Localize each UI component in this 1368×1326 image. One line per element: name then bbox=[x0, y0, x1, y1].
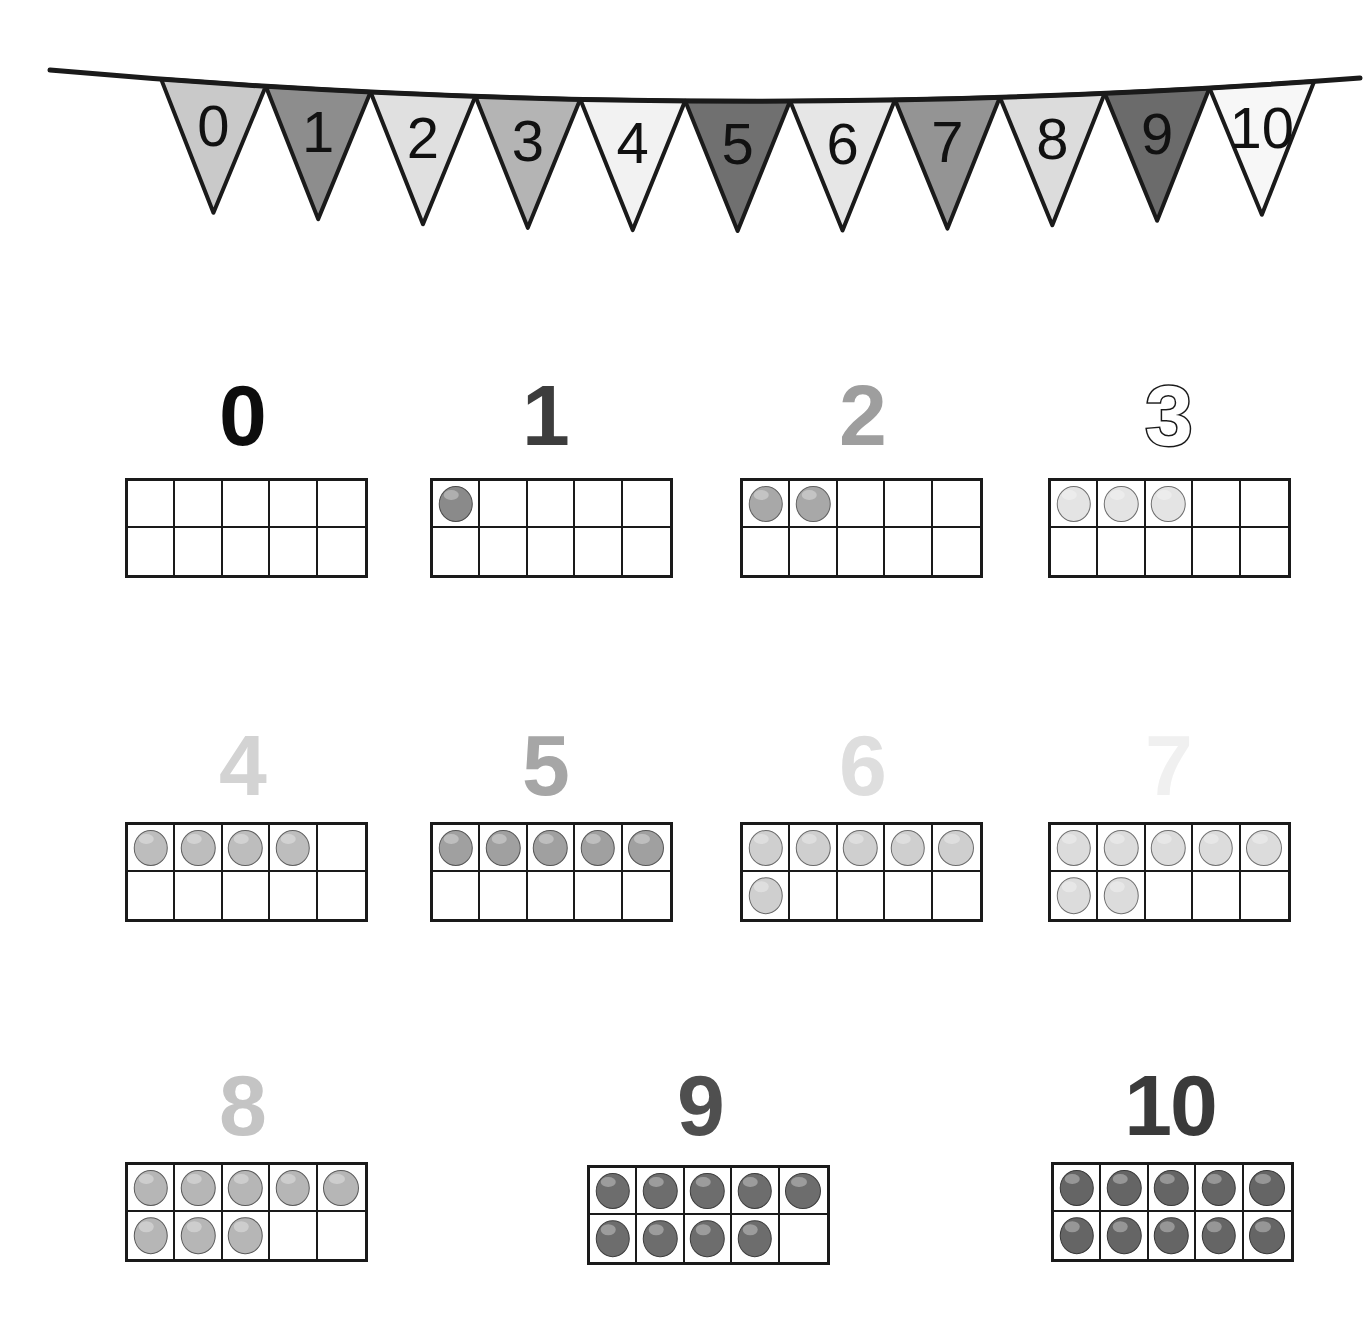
ten-frame-cell[interactable] bbox=[1051, 481, 1098, 528]
ten-frame-cell[interactable] bbox=[175, 528, 222, 575]
ten-frame-cell[interactable] bbox=[223, 872, 270, 919]
ten-frame-cell[interactable] bbox=[885, 528, 932, 575]
ten-frame-cell[interactable] bbox=[1146, 481, 1193, 528]
ten-frame-cell[interactable] bbox=[128, 481, 175, 528]
ten-frame-3[interactable] bbox=[1048, 478, 1291, 578]
ten-frame-cell[interactable] bbox=[223, 481, 270, 528]
ten-frame-cell[interactable] bbox=[623, 825, 670, 872]
ten-frame-cell[interactable] bbox=[270, 1212, 317, 1259]
ten-frame-cell[interactable] bbox=[1098, 528, 1145, 575]
ten-frame-cell[interactable] bbox=[318, 481, 365, 528]
ten-frame-cell[interactable] bbox=[175, 872, 222, 919]
ten-frame-cell[interactable] bbox=[1193, 872, 1240, 919]
ten-frame-5[interactable] bbox=[430, 822, 673, 922]
ten-frame-cell[interactable] bbox=[575, 528, 622, 575]
ten-frame-cell[interactable] bbox=[1193, 528, 1240, 575]
ten-frame-1[interactable] bbox=[430, 478, 673, 578]
ten-frame-cell[interactable] bbox=[1193, 825, 1240, 872]
ten-frame-cell[interactable] bbox=[732, 1168, 779, 1215]
ten-frame-cell[interactable] bbox=[480, 481, 527, 528]
ten-frame-cell[interactable] bbox=[528, 481, 575, 528]
ten-frame-cell[interactable] bbox=[270, 825, 317, 872]
ten-frame-cell[interactable] bbox=[480, 825, 527, 872]
ten-frame-cell[interactable] bbox=[790, 481, 837, 528]
ten-frame-cell[interactable] bbox=[933, 872, 980, 919]
ten-frame-cell[interactable] bbox=[933, 481, 980, 528]
ten-frame-cell[interactable] bbox=[1241, 825, 1288, 872]
ten-frame-cell[interactable] bbox=[128, 872, 175, 919]
ten-frame-cell[interactable] bbox=[1098, 825, 1145, 872]
ten-frame-cell[interactable] bbox=[223, 825, 270, 872]
ten-frame-cell[interactable] bbox=[623, 481, 670, 528]
ten-frame-cell[interactable] bbox=[1196, 1212, 1243, 1259]
ten-frame-cell[interactable] bbox=[1146, 825, 1193, 872]
ten-frame-cell[interactable] bbox=[637, 1168, 684, 1215]
ten-frame-cell[interactable] bbox=[732, 1215, 779, 1262]
ten-frame-cell[interactable] bbox=[623, 872, 670, 919]
ten-frame-cell[interactable] bbox=[1098, 872, 1145, 919]
ten-frame-cell[interactable] bbox=[637, 1215, 684, 1262]
ten-frame-0[interactable] bbox=[125, 478, 368, 578]
ten-frame-cell[interactable] bbox=[1146, 872, 1193, 919]
ten-frame-cell[interactable] bbox=[933, 825, 980, 872]
ten-frame-4[interactable] bbox=[125, 822, 368, 922]
ten-frame-cell[interactable] bbox=[685, 1215, 732, 1262]
ten-frame-cell[interactable] bbox=[223, 528, 270, 575]
ten-frame-cell[interactable] bbox=[1244, 1212, 1291, 1259]
ten-frame-cell[interactable] bbox=[175, 481, 222, 528]
ten-frame-cell[interactable] bbox=[780, 1168, 827, 1215]
ten-frame-cell[interactable] bbox=[590, 1168, 637, 1215]
ten-frame-cell[interactable] bbox=[128, 825, 175, 872]
ten-frame-8[interactable] bbox=[125, 1162, 368, 1262]
ten-frame-cell[interactable] bbox=[743, 872, 790, 919]
ten-frame-cell[interactable] bbox=[1196, 1165, 1243, 1212]
ten-frame-cell[interactable] bbox=[838, 528, 885, 575]
ten-frame-cell[interactable] bbox=[838, 872, 885, 919]
ten-frame-cell[interactable] bbox=[1241, 481, 1288, 528]
ten-frame-cell[interactable] bbox=[433, 528, 480, 575]
ten-frame-cell[interactable] bbox=[1098, 481, 1145, 528]
ten-frame-10[interactable] bbox=[1051, 1162, 1294, 1262]
ten-frame-cell[interactable] bbox=[480, 872, 527, 919]
ten-frame-cell[interactable] bbox=[128, 1165, 175, 1212]
ten-frame-cell[interactable] bbox=[528, 872, 575, 919]
ten-frame-9[interactable] bbox=[587, 1165, 830, 1265]
ten-frame-cell[interactable] bbox=[1051, 825, 1098, 872]
ten-frame-cell[interactable] bbox=[838, 481, 885, 528]
ten-frame-cell[interactable] bbox=[1146, 528, 1193, 575]
ten-frame-cell[interactable] bbox=[743, 528, 790, 575]
ten-frame-cell[interactable] bbox=[480, 528, 527, 575]
ten-frame-cell[interactable] bbox=[1054, 1165, 1101, 1212]
ten-frame-cell[interactable] bbox=[1241, 872, 1288, 919]
ten-frame-cell[interactable] bbox=[175, 1212, 222, 1259]
ten-frame-cell[interactable] bbox=[575, 825, 622, 872]
ten-frame-cell[interactable] bbox=[790, 825, 837, 872]
ten-frame-cell[interactable] bbox=[175, 1165, 222, 1212]
ten-frame-cell[interactable] bbox=[838, 825, 885, 872]
ten-frame-cell[interactable] bbox=[623, 528, 670, 575]
ten-frame-cell[interactable] bbox=[1051, 528, 1098, 575]
ten-frame-2[interactable] bbox=[740, 478, 983, 578]
ten-frame-cell[interactable] bbox=[885, 825, 932, 872]
ten-frame-cell[interactable] bbox=[270, 872, 317, 919]
ten-frame-cell[interactable] bbox=[1051, 872, 1098, 919]
ten-frame-cell[interactable] bbox=[1149, 1212, 1196, 1259]
ten-frame-cell[interactable] bbox=[528, 528, 575, 575]
ten-frame-cell[interactable] bbox=[318, 825, 365, 872]
ten-frame-cell[interactable] bbox=[1101, 1165, 1148, 1212]
ten-frame-cell[interactable] bbox=[885, 481, 932, 528]
ten-frame-cell[interactable] bbox=[1054, 1212, 1101, 1259]
ten-frame-7[interactable] bbox=[1048, 822, 1291, 922]
ten-frame-6[interactable] bbox=[740, 822, 983, 922]
ten-frame-cell[interactable] bbox=[270, 528, 317, 575]
ten-frame-cell[interactable] bbox=[743, 825, 790, 872]
ten-frame-cell[interactable] bbox=[318, 1212, 365, 1259]
ten-frame-cell[interactable] bbox=[128, 1212, 175, 1259]
ten-frame-cell[interactable] bbox=[575, 481, 622, 528]
ten-frame-cell[interactable] bbox=[223, 1165, 270, 1212]
ten-frame-cell[interactable] bbox=[223, 1212, 270, 1259]
ten-frame-cell[interactable] bbox=[590, 1215, 637, 1262]
ten-frame-cell[interactable] bbox=[528, 825, 575, 872]
ten-frame-cell[interactable] bbox=[270, 1165, 317, 1212]
ten-frame-cell[interactable] bbox=[1193, 481, 1240, 528]
